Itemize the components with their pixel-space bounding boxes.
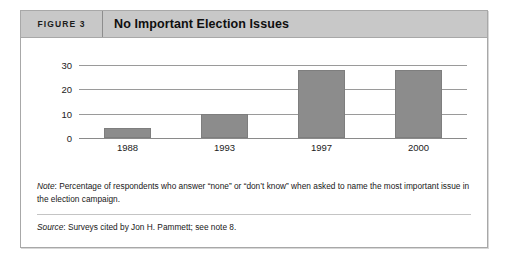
source-line: Source: Surveys cited by Jon H. Pammett;… (37, 221, 471, 234)
bar-1993 (201, 114, 249, 138)
bar-group (79, 60, 467, 138)
source-text: : Surveys cited by Jon H. Pammett; see n… (63, 222, 236, 232)
y-tick-20: 20 (61, 84, 72, 95)
bar-1997 (298, 70, 346, 138)
x-tick-1997: 1997 (273, 142, 370, 153)
chart-plot-area: 30 20 10 0 (79, 60, 467, 138)
bar-slot-1993 (176, 60, 273, 138)
note-text: : Percentage of respondents who answer “… (37, 181, 469, 204)
x-axis-labels: 1988 1993 1997 2000 (79, 142, 467, 153)
gridline-0-axis (79, 138, 467, 139)
note-line: Note: Percentage of respondents who answ… (37, 180, 471, 214)
x-tick-1988: 1988 (79, 142, 176, 153)
y-tick-10: 10 (61, 108, 72, 119)
figure-container: FIGURE 3 No Important Election Issues 30… (20, 10, 488, 248)
source-label: Source (37, 222, 63, 232)
figure-body: 30 20 10 0 (21, 54, 487, 262)
bar-slot-1997 (273, 60, 370, 138)
y-tick-30: 30 (61, 59, 72, 70)
footnotes-block: Note: Percentage of respondents who answ… (37, 180, 471, 234)
bar-2000 (395, 70, 443, 138)
figure-number-label: FIGURE 3 (21, 11, 103, 37)
figure-title: No Important Election Issues (103, 11, 487, 37)
bar-slot-2000 (370, 60, 467, 138)
figure-header: FIGURE 3 No Important Election Issues (21, 11, 487, 38)
note-label: Note (37, 181, 55, 191)
bar-slot-1988 (79, 60, 176, 138)
x-tick-2000: 2000 (370, 142, 467, 153)
bar-1988 (104, 128, 152, 138)
y-tick-0: 0 (67, 133, 72, 144)
footnote-divider (37, 214, 471, 215)
x-tick-1993: 1993 (176, 142, 273, 153)
bar-chart: 30 20 10 0 (37, 54, 471, 158)
